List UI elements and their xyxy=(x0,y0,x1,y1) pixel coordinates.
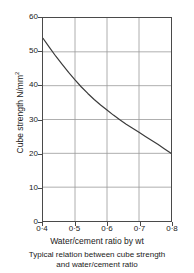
y-tick-mark xyxy=(38,51,42,52)
chart-figure: 01020304050600·40·50·60·70·8 Cube streng… xyxy=(0,0,194,273)
y-axis-label-text: Cube strength N/mm xyxy=(15,75,25,153)
x-tick-label: 0·8 xyxy=(157,225,187,233)
x-tick-label: 0·6 xyxy=(92,225,122,233)
caption-line-2: and water/cement ratio xyxy=(0,260,194,270)
y-tick-label: 60 xyxy=(12,13,38,21)
chart-caption: Typical relation between cube strength a… xyxy=(0,250,194,269)
y-axis-label-exponent: 2 xyxy=(14,72,20,75)
x-axis-label: Water/cement ratio by wt xyxy=(0,236,194,246)
y-tick-mark xyxy=(38,120,42,121)
x-tick-label: 0·4 xyxy=(27,225,57,233)
x-tick-label: 0·7 xyxy=(125,225,155,233)
y-tick-mark xyxy=(38,154,42,155)
y-tick-mark xyxy=(38,85,42,86)
y-tick-mark xyxy=(38,17,42,18)
y-axis-label: Cube strength N/mm2 xyxy=(16,48,25,178)
plot-area xyxy=(42,17,172,222)
y-tick-label: 10 xyxy=(12,184,38,192)
y-tick-mark xyxy=(38,188,42,189)
data-curve xyxy=(43,18,171,221)
x-tick-label: 0·5 xyxy=(60,225,90,233)
caption-line-1: Typical relation between cube strength xyxy=(0,250,194,260)
